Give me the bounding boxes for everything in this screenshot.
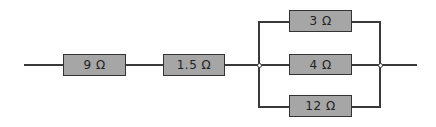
resistor-12-ohm: 12 Ω	[289, 95, 352, 117]
wire-middle-right	[351, 64, 381, 66]
wire-output	[380, 64, 417, 66]
wire-to-parallel	[224, 64, 260, 66]
junction-node-left	[257, 63, 262, 68]
wire-bottom-left	[258, 106, 290, 108]
resistor-1-5-ohm: 1.5 Ω	[163, 54, 225, 76]
junction-node-right	[378, 63, 383, 68]
wire-series-link	[125, 64, 164, 66]
resistor-9-ohm: 9 Ω	[63, 54, 126, 76]
wire-middle-left	[259, 64, 290, 66]
resistor-3-ohm: 3 Ω	[289, 10, 352, 32]
wire-top-left	[258, 21, 290, 23]
wire-top-right	[351, 21, 381, 23]
wire-bottom-right	[351, 106, 381, 108]
wire-input	[24, 64, 64, 66]
resistor-4-ohm: 4 Ω	[289, 54, 352, 75]
